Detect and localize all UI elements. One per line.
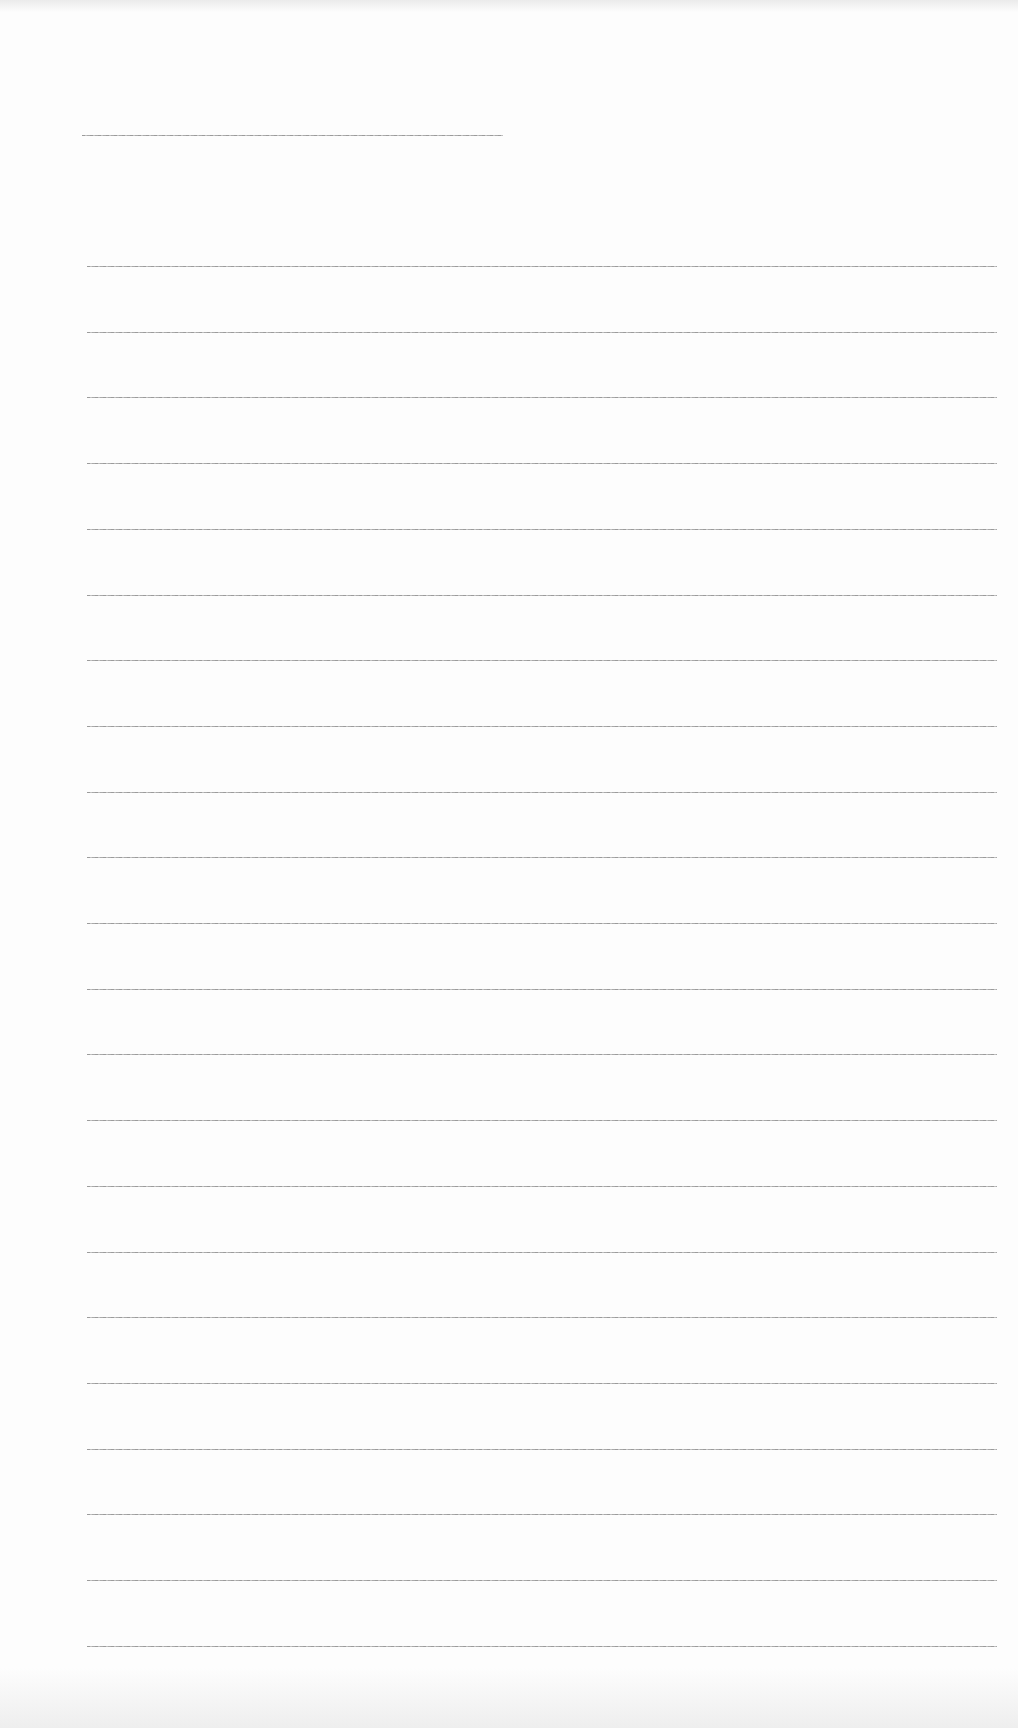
ruled-line	[87, 332, 997, 333]
ruled-line	[87, 1317, 997, 1318]
ruled-lines	[0, 0, 1018, 1728]
ruled-line	[87, 726, 997, 727]
ruled-line	[87, 529, 997, 530]
ruled-line	[87, 660, 997, 661]
ruled-line	[87, 1120, 997, 1121]
ruled-line	[87, 1252, 997, 1253]
ruled-line	[87, 1186, 997, 1187]
ruled-line	[87, 266, 997, 267]
ruled-line	[87, 792, 997, 793]
ruled-line	[87, 1449, 997, 1450]
ruled-line	[87, 463, 997, 464]
ruled-line	[87, 923, 997, 924]
ruled-line	[87, 595, 997, 596]
ruled-line	[87, 857, 997, 858]
lined-paper-sheet	[0, 0, 1018, 1728]
ruled-line	[87, 1383, 997, 1384]
ruled-line	[87, 1054, 997, 1055]
ruled-line	[87, 1514, 997, 1515]
ruled-line	[87, 1646, 997, 1647]
ruled-line	[87, 397, 997, 398]
ruled-line	[87, 989, 997, 990]
ruled-line	[87, 1580, 997, 1581]
